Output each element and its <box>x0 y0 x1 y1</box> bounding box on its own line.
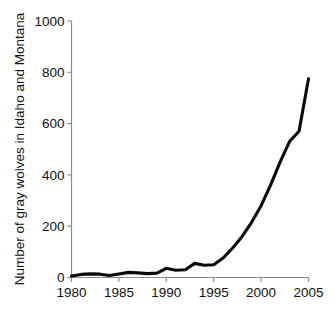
x-tick-label: 1980 <box>56 285 86 300</box>
y-tick-label: 0 <box>57 270 65 285</box>
x-tick-label: 1985 <box>104 285 134 300</box>
x-tick-label: 1990 <box>151 285 181 300</box>
x-tick-label: 2005 <box>293 285 323 300</box>
x-tick-label: 2000 <box>246 285 276 300</box>
data-series-group <box>72 79 309 276</box>
x-tick-label: 1995 <box>199 285 229 300</box>
x-axis-ticks: 198019851990199520002005 <box>56 278 323 300</box>
chart-figure: Number of gray wolves in Idaho and Monta… <box>0 0 335 312</box>
y-axis-title: Number of gray wolves in Idaho and Monta… <box>12 12 27 285</box>
y-tick-label: 800 <box>42 65 65 80</box>
y-tick-label: 1000 <box>34 14 64 29</box>
y-axis-title-group: Number of gray wolves in Idaho and Monta… <box>12 12 27 285</box>
y-tick-label: 400 <box>42 168 65 183</box>
y-tick-label: 600 <box>42 116 65 131</box>
axis-spines <box>71 21 309 278</box>
y-axis-ticks: 02004006008001000 <box>34 14 71 286</box>
y-tick-label: 200 <box>42 219 65 234</box>
line-chart: Number of gray wolves in Idaho and Monta… <box>0 0 335 312</box>
data-line-gray-wolves <box>72 79 309 276</box>
